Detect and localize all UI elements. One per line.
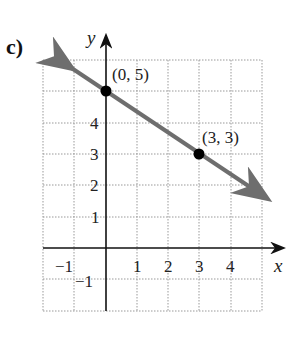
point-0-5 (101, 86, 112, 97)
x-tick: 4 (226, 258, 235, 275)
point-label: (0, 5) (112, 66, 149, 83)
y-axis-label: y (87, 28, 95, 47)
y-tick: −1 (75, 273, 93, 290)
x-tick: 2 (164, 258, 173, 275)
y-tick: 1 (91, 209, 100, 226)
coordinate-plane (0, 0, 292, 338)
x-axis-label: x (274, 256, 282, 275)
point-label: (3, 3) (202, 129, 239, 146)
point-3-3 (194, 149, 205, 160)
x-tick: −1 (55, 258, 73, 275)
y-tick: 4 (90, 115, 99, 132)
x-tick: 1 (133, 258, 142, 275)
y-tick: 2 (90, 177, 99, 194)
y-tick: 3 (90, 146, 99, 163)
x-tick: 3 (195, 258, 204, 275)
